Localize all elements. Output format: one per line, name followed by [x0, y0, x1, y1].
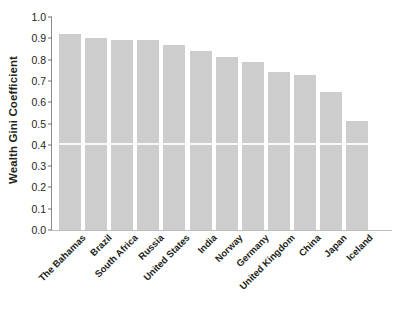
y-axis-tick-mark [48, 123, 52, 124]
x-axis-line [52, 230, 392, 231]
bar-render-band [216, 143, 238, 145]
bar[interactable] [85, 38, 107, 230]
bar[interactable] [190, 51, 212, 230]
y-axis-tick-label: 0.7 [6, 75, 52, 87]
bar-render-band [137, 143, 159, 145]
y-axis-tick-mark [48, 187, 52, 188]
y-axis-tick-label: 0.5 [6, 118, 52, 130]
y-axis-tick-label: 0.4 [6, 139, 52, 151]
bar[interactable] [59, 34, 81, 230]
y-axis-tick-label: 0.3 [6, 160, 52, 172]
y-axis-tick-mark [48, 17, 52, 18]
bar-render-band [346, 143, 368, 145]
x-axis-label: Iceland [344, 232, 375, 263]
bar[interactable] [163, 45, 185, 230]
plot-area: 1.00.90.80.70.60.50.40.30.20.10.0 [52, 17, 392, 230]
x-axis-labels: The BahamasBrazilSouth AfricaRussiaUnite… [52, 232, 392, 308]
bar-render-band [85, 143, 107, 145]
bar[interactable] [268, 72, 290, 230]
bar-chart: Wealth Gini Coefficient 1.00.90.80.70.60… [0, 0, 395, 310]
y-axis-tick-label: 0.1 [6, 203, 52, 215]
x-axis-label: China [296, 232, 322, 258]
bar-render-band [190, 143, 212, 145]
y-axis-tick-mark [48, 166, 52, 167]
y-axis-tick-label: 0.2 [6, 181, 52, 193]
bar[interactable] [346, 121, 368, 230]
y-axis-tick-label: 1.0 [6, 11, 52, 23]
bar[interactable] [137, 40, 159, 230]
bar-render-band [163, 143, 185, 145]
y-axis-tick-mark [48, 59, 52, 60]
bar-render-band [242, 143, 264, 145]
y-axis-tick-mark [48, 208, 52, 209]
y-axis-tick-mark [48, 230, 52, 231]
y-axis-tick-mark [48, 144, 52, 145]
bar-render-band [320, 143, 342, 145]
y-axis-tick-label: 0.9 [6, 32, 52, 44]
bar[interactable] [242, 62, 264, 230]
bar[interactable] [294, 75, 316, 230]
y-axis-tick-label: 0.0 [6, 224, 52, 236]
y-axis-tick-mark [48, 80, 52, 81]
y-axis-tick-label: 0.8 [6, 54, 52, 66]
y-axis-tick-mark [48, 102, 52, 103]
x-axis-label: India [195, 232, 218, 255]
x-axis-label: The Bahamas [36, 232, 87, 283]
bar-render-band [59, 143, 81, 145]
y-axis-tick-label: 0.6 [6, 96, 52, 108]
bar-render-band [268, 143, 290, 145]
bar[interactable] [216, 57, 238, 230]
bar[interactable] [320, 92, 342, 230]
bar-render-band [294, 143, 316, 145]
y-axis-tick-mark [48, 38, 52, 39]
bar[interactable] [111, 40, 133, 230]
bar-render-band [111, 143, 133, 145]
